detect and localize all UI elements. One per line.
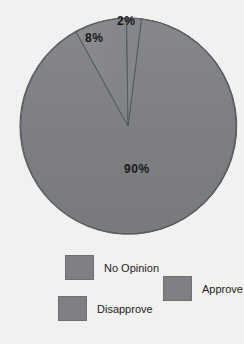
pie-data-label-no-opinion: 8% [85, 31, 104, 45]
pie-chart-figure: 90% 8% 2% No Opinion Disapprove Approve [0, 0, 244, 344]
legend-label-disapprove: Disapprove [97, 303, 153, 315]
legend-swatch-approve [163, 276, 192, 301]
pie-data-label-approve: 2% [117, 14, 136, 28]
legend-label-no-opinion: No Opinion [104, 262, 159, 274]
legend-swatch-no-opinion [65, 255, 94, 280]
pie-svg [0, 0, 244, 250]
legend-item-approve: Approve [163, 276, 243, 301]
legend-label-approve: Approve [202, 283, 243, 295]
pie-plot-area: 90% 8% 2% [0, 0, 244, 250]
legend-item-no-opinion: No Opinion [65, 255, 159, 280]
pie-data-label-disapprove: 90% [124, 162, 150, 176]
legend-swatch-disapprove [58, 296, 87, 321]
legend-item-disapprove: Disapprove [58, 296, 153, 321]
chart-legend: No Opinion Disapprove Approve [0, 248, 244, 344]
